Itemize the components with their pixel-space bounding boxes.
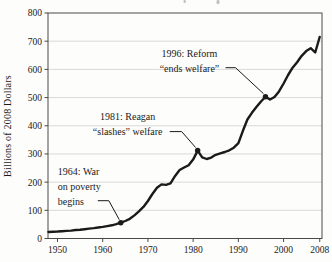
x-axis-tick-label: 1950 [48,245,67,255]
welfare-spending-chart: Billions of 2008 Dollars 010020030040050… [0,0,332,262]
cropped-title-descenders [184,0,220,4]
y-axis-title: Billions of 2008 Dollars [2,75,13,177]
annotation-label: “slashes” welfare [93,126,163,137]
y-axis-tick-label: 500 [28,93,43,103]
x-axis-tick-label: 1980 [184,245,203,255]
annotations: 1964: Waron povertybegins1981: Reagan“sl… [58,48,268,226]
x-axis-tick-label: 1990 [229,245,248,255]
event-dot [118,220,123,225]
y-axis-tick-label: 100 [28,206,43,216]
annotation-label: 1981: Reagan [100,111,155,122]
annotation-label: on poverty [58,181,101,192]
event-dot [195,148,200,153]
annotation-1964: 1964: Waron povertybegins [58,166,124,226]
event-dot [263,94,268,99]
annotation-label: 1964: War [58,166,100,177]
annotation-leader-line [170,132,196,148]
y-axis-tick-label: 800 [28,8,43,18]
y-axis-tick-label: 200 [28,178,43,188]
annotation-label: begins [58,196,84,207]
annotation-label: 1996: Reform [162,48,218,59]
x-axis-tick-label: 1970 [138,245,157,255]
x-axis-tick-label: 2008 [310,245,329,255]
y-axis-tick-label: 700 [28,37,43,47]
x-axis-tick-label: 1960 [93,245,112,255]
annotation-1996: 1996: Reform“ends welfare” [160,48,269,100]
annotation-1981: 1981: Reagan“slashes” welfare [93,111,201,154]
annotation-label: “ends welfare” [160,63,220,74]
y-axis-tick-label: 0 [37,234,42,244]
chart-canvas: Billions of 2008 Dollars 010020030040050… [0,0,332,262]
y-axis-tick-label: 600 [28,65,43,75]
annotation-leader-line [226,68,264,94]
y-axis-tick-label: 400 [28,121,43,131]
y-axis-tick-label: 300 [28,149,43,159]
x-axis-tick-label: 2000 [274,245,293,255]
